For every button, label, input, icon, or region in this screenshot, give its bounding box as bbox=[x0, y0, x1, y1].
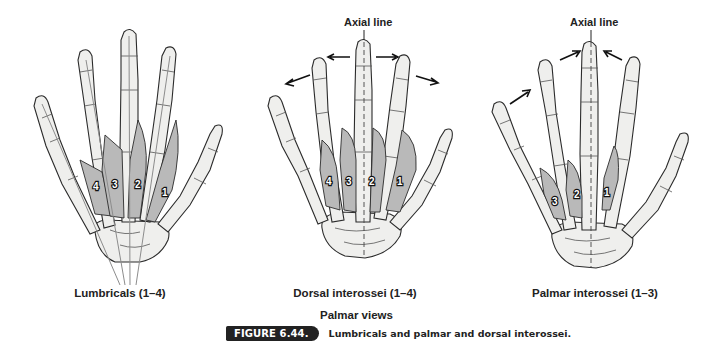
axial-line-label-2: Axial line bbox=[570, 16, 618, 28]
arrow-left-inner-icon bbox=[328, 54, 350, 60]
arrow-right-outer-icon bbox=[416, 76, 438, 85]
dorsal-label-2: 2 bbox=[369, 176, 375, 187]
arrow-right-inner-icon bbox=[376, 54, 398, 60]
palmar-interossei-panel: Axial line 3 2 1 bbox=[470, 0, 713, 290]
figure-number-badge: FIGURE 6.44. bbox=[226, 326, 319, 341]
dorsal-interosseus-3 bbox=[340, 128, 356, 212]
palmar-label-2: 2 bbox=[574, 189, 580, 200]
arrow-in-left-outer-icon bbox=[510, 90, 530, 104]
arrow-left-outer-icon bbox=[286, 75, 310, 86]
dorsal-label-3: 3 bbox=[346, 176, 352, 187]
lumbrical-label-1: 1 bbox=[162, 187, 168, 198]
palmar-label-1: 1 bbox=[604, 187, 610, 198]
arrow-in-right-icon bbox=[604, 51, 622, 60]
arrow-in-left-inner-icon bbox=[560, 51, 580, 60]
lumbrical-label-4: 4 bbox=[93, 181, 99, 192]
palmar-interossei-caption: Palmar interossei (1–3) bbox=[520, 287, 670, 299]
palmar-views-subtitle: Palmar views bbox=[0, 309, 713, 321]
dorsal-interossei-caption: Dorsal interossei (1–4) bbox=[280, 287, 430, 299]
lumbricals-caption: Lumbricals (1–4) bbox=[60, 287, 180, 299]
lumbricals-panel: 4 3 2 1 bbox=[0, 0, 240, 290]
dorsal-interossei-panel: Axial line 4 3 2 1 bbox=[240, 0, 470, 290]
figure-caption: Lumbricals and palmar and dorsal interos… bbox=[329, 328, 572, 339]
lumbrical-label-3: 3 bbox=[112, 179, 118, 190]
dorsal-label-4: 4 bbox=[326, 176, 332, 187]
lumbrical-label-2: 2 bbox=[135, 179, 141, 190]
figure-caption-row: FIGURE 6.44. Lumbricals and palmar and d… bbox=[226, 326, 571, 341]
axial-line-label: Axial line bbox=[344, 16, 392, 28]
dorsal-interossei-hand-illustration: 4 3 2 1 bbox=[240, 0, 470, 290]
palmar-label-3: 3 bbox=[552, 196, 558, 207]
lumbricals-hand-illustration: 4 3 2 1 bbox=[0, 0, 240, 290]
dorsal-interosseus-4 bbox=[320, 140, 340, 210]
palmar-interossei-hand-illustration: 3 2 1 bbox=[470, 0, 713, 290]
dorsal-label-1: 1 bbox=[397, 176, 403, 187]
